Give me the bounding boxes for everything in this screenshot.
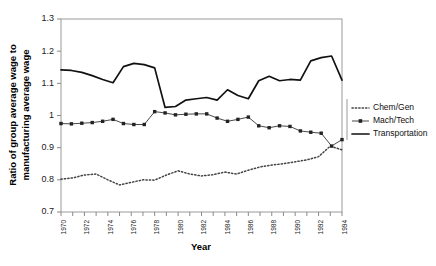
x-tick-label: 1988 xyxy=(270,220,277,235)
legend-item-transportation[interactable]: Transportation xyxy=(352,128,428,138)
series-marker-machtech xyxy=(122,122,125,125)
series-marker-machtech xyxy=(267,126,270,129)
series-marker-machtech xyxy=(299,129,302,132)
series-marker-machtech xyxy=(132,123,135,126)
series-marker-machtech xyxy=(278,124,281,127)
y-tick-label: 0.8 xyxy=(41,174,54,184)
series-marker-machtech xyxy=(226,120,229,123)
plot-area xyxy=(61,19,342,212)
series-marker-machtech xyxy=(153,110,156,113)
legend-item-machtech[interactable]: Mach/Tech xyxy=(352,115,414,125)
y-tick-label: 1.3 xyxy=(41,13,54,23)
series-marker-machtech xyxy=(70,122,73,125)
y-tick-label: 0.7 xyxy=(41,206,54,216)
x-tick-label: 1986 xyxy=(247,220,254,235)
x-tick-label: 1982 xyxy=(200,220,207,235)
y-tick-label: 0.9 xyxy=(41,142,54,152)
series-marker-machtech xyxy=(174,113,177,116)
y-axis-title-line1: Ratio of group average wage to xyxy=(7,44,18,186)
legend-label: Chem/Gen xyxy=(373,102,414,112)
series-marker-machtech xyxy=(247,115,250,118)
series-marker-machtech xyxy=(143,123,146,126)
series-marker-machtech xyxy=(163,111,166,114)
plot-frame xyxy=(61,19,342,212)
y-axis-ticks xyxy=(57,19,61,212)
y-axis-title-line2: manufacturing average wage xyxy=(20,50,31,181)
chart-svg: 1.31.21.110.90.80.7 19701972197419761978… xyxy=(0,0,436,266)
chart-figure: 1.31.21.110.90.80.7 19701972197419761978… xyxy=(0,0,436,266)
series-marker-machtech xyxy=(91,121,94,124)
x-tick-label: 1976 xyxy=(130,220,137,235)
y-tick-label: 1.2 xyxy=(41,46,54,56)
series-marker-machtech xyxy=(111,118,114,121)
series-marker-machtech xyxy=(59,122,62,125)
series-marker-machtech xyxy=(101,120,104,123)
legend-label: Mach/Tech xyxy=(373,115,414,125)
series-marker-machtech xyxy=(288,125,291,128)
y-axis-tick-labels: 1.31.21.110.90.80.7 xyxy=(41,13,54,216)
x-axis-tick-labels: 1970197219741976197819801982198419861988… xyxy=(60,220,348,235)
series-marker-machtech xyxy=(257,124,260,127)
series-marker-machtech xyxy=(319,131,322,134)
legend-item-chemgen[interactable]: Chem/Gen xyxy=(352,102,414,112)
x-tick-label: 1970 xyxy=(60,220,67,235)
x-tick-label: 1990 xyxy=(294,220,301,235)
x-tick-label: 1980 xyxy=(177,220,184,235)
legend-marker xyxy=(359,119,363,123)
series-marker-machtech xyxy=(340,138,343,141)
chart-legend: Chem/GenMach/TechTransportation xyxy=(347,99,428,140)
x-tick-label: 1974 xyxy=(107,220,114,235)
x-tick-label: 1984 xyxy=(224,220,231,235)
legend-label: Transportation xyxy=(373,128,428,138)
x-tick-label: 1978 xyxy=(153,220,160,235)
series-marker-machtech xyxy=(330,144,333,147)
series-marker-machtech xyxy=(184,113,187,116)
series-marker-machtech xyxy=(80,122,83,125)
y-tick-label: 1.1 xyxy=(41,78,54,88)
x-axis-title: Year xyxy=(191,241,211,252)
x-tick-label: 1992 xyxy=(317,220,324,235)
series-marker-machtech xyxy=(205,112,208,115)
series-marker-machtech xyxy=(236,118,239,121)
x-tick-label: 1972 xyxy=(83,220,90,235)
x-axis-ticks xyxy=(61,212,342,216)
series-marker-machtech xyxy=(309,131,312,134)
series-marker-machtech xyxy=(215,116,218,119)
series-marker-machtech xyxy=(195,112,198,115)
x-tick-label: 1994 xyxy=(341,220,348,235)
y-tick-label: 1 xyxy=(49,110,54,120)
